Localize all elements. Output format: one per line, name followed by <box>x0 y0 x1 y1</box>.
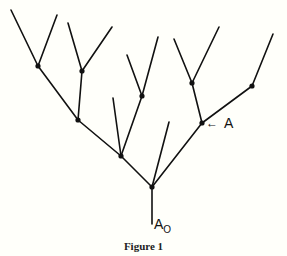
tree-branch <box>192 27 219 83</box>
tree-branch <box>78 120 121 156</box>
node-a-label: A <box>224 116 233 130</box>
arrow-to-node-a-icon: ← <box>206 117 218 129</box>
tree-branch <box>142 37 158 96</box>
tree-node-n6 <box>189 80 194 85</box>
tree-branch <box>68 23 82 71</box>
tree-branch <box>174 39 192 83</box>
root-a0-subscript: O <box>163 224 171 235</box>
tree-branch <box>113 98 121 156</box>
tree-node-n3 <box>35 63 40 68</box>
tree-branch <box>192 83 202 123</box>
tree-branch <box>78 71 82 120</box>
tree-node-n7 <box>249 83 254 88</box>
tree-branch <box>127 55 142 96</box>
root-a0-main: A <box>154 216 163 232</box>
figure-caption: Figure 1 <box>0 240 287 252</box>
tree-branch <box>121 156 152 187</box>
tree-node-n4 <box>79 68 84 73</box>
root-a0-label: AO <box>154 217 171 231</box>
branching-tree-diagram <box>0 0 287 256</box>
tree-branch <box>152 123 202 187</box>
tree-branch <box>38 15 57 66</box>
tree-branch <box>11 10 38 66</box>
tree-branch <box>252 34 273 86</box>
tree-node-root <box>149 184 154 189</box>
tree-node-A <box>199 120 204 125</box>
tree-node-n5 <box>139 93 144 98</box>
tree-node-n1 <box>118 153 123 158</box>
tree-branch <box>82 27 112 71</box>
tree-branch <box>121 96 142 156</box>
tree-branch <box>38 66 78 120</box>
tree-node-n2 <box>75 117 80 122</box>
